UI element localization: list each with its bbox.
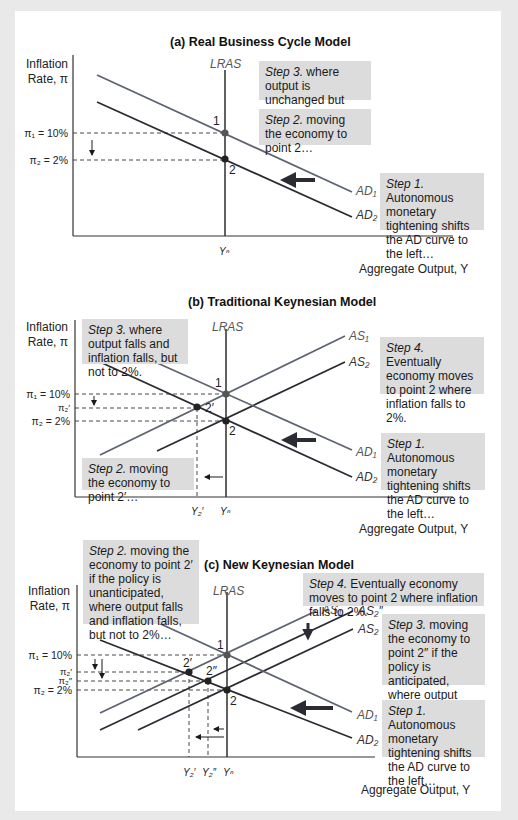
x-tick-yn: Yⁿ bbox=[219, 244, 229, 259]
lras-label: LRAS bbox=[213, 584, 244, 599]
step-number: Step 2. bbox=[89, 544, 127, 558]
y-axis-label-line1: Inflation bbox=[18, 584, 70, 599]
y-axis-label: Inflation Rate, π bbox=[16, 57, 68, 87]
point-2prime bbox=[193, 403, 200, 410]
step-number: Step 3. bbox=[265, 65, 303, 79]
ad2-label: AD₂ bbox=[356, 470, 377, 485]
y-tick-pi2prime: π₂′ bbox=[0, 400, 70, 415]
step-2-box: Step 2. moving the economy to point 2′… bbox=[82, 458, 194, 490]
lras-label: LRAS bbox=[212, 320, 243, 335]
as1-label: AS₁ bbox=[349, 329, 369, 344]
point-label-2dprime: 2″ bbox=[206, 664, 217, 679]
point-label-2prime: 2′ bbox=[183, 656, 192, 671]
lras-label: LRAS bbox=[210, 57, 241, 72]
y-axis-label-line2: Rate, π bbox=[18, 599, 70, 614]
x-tick-y2dprime: Y₂″ bbox=[202, 765, 216, 780]
y-tick-pi2: π₂ = 2% bbox=[0, 153, 68, 168]
step-1-box: Step 1. Autonomous monetary tightening s… bbox=[382, 700, 485, 757]
as2-label: AS₂ bbox=[349, 355, 370, 370]
step-number: Step 4. bbox=[309, 577, 347, 591]
point-1 bbox=[221, 129, 228, 136]
step-number: Step 3. bbox=[388, 618, 426, 632]
ad2-label: AD₂ bbox=[357, 733, 378, 748]
y-tick-pi1: π₁ = 10% bbox=[0, 126, 68, 141]
point-1 bbox=[222, 390, 229, 397]
point-2 bbox=[223, 686, 230, 693]
panel-c-title: (c) New Keynesian Model bbox=[204, 558, 354, 572]
point-label-2prime: 2′ bbox=[205, 401, 214, 416]
x-axis-title: Aggregate Output, Y bbox=[359, 262, 468, 276]
ad1-label: AD₁ bbox=[356, 184, 376, 199]
y-tick-pi2: π₂ = 2% bbox=[0, 683, 72, 698]
as2-label: AS₂ bbox=[358, 622, 379, 637]
step-number: Step 3. bbox=[88, 323, 126, 337]
y-tick-pi2: π₂ = 2% bbox=[0, 414, 70, 429]
step-number: Step 2. bbox=[88, 462, 126, 476]
step-3-box: Step 3. where output falls and inflation… bbox=[82, 319, 188, 364]
point-label-2: 2 bbox=[229, 424, 236, 439]
point-label-1: 1 bbox=[217, 638, 224, 653]
x-tick-y2prime: Y₂′ bbox=[191, 504, 203, 519]
y-axis-label-line2: Rate, π bbox=[16, 72, 68, 87]
x-axis-title: Aggregate Output, Y bbox=[359, 522, 468, 536]
y-axis-label-line2: Rate, π bbox=[16, 335, 68, 350]
point-label-1: 1 bbox=[215, 376, 222, 391]
step-1-box: Step 1. Autonomous monetary tightening s… bbox=[381, 433, 485, 490]
y-axis-label-line1: Inflation bbox=[16, 57, 68, 72]
y-axis-label-line1: Inflation bbox=[16, 320, 68, 335]
step-4-box: Step 4. Eventually economy moves to poin… bbox=[303, 573, 484, 606]
step-1-box: Step 1. Autonomous monetary tightening s… bbox=[380, 173, 484, 230]
step-3-box: Step 3. where output is unchanged but in… bbox=[259, 61, 371, 100]
step-3-box: Step 3. moving the economy to point 2″ i… bbox=[382, 614, 485, 685]
step-number: Step 2. bbox=[265, 113, 303, 127]
y-axis-label: Inflation Rate, π bbox=[16, 320, 68, 350]
ad1-curve bbox=[155, 362, 352, 450]
point-label-2: 2 bbox=[230, 694, 237, 709]
y-axis-label: Inflation Rate, π bbox=[18, 584, 70, 614]
step-number: Step 4. bbox=[386, 341, 424, 355]
step-number: Step 1. bbox=[387, 437, 425, 451]
x-tick-y2prime: Y₂′ bbox=[183, 765, 195, 780]
x-tick-yn: Yⁿ bbox=[220, 504, 230, 519]
ad1-label: AD₁ bbox=[357, 708, 377, 723]
step-2-box: Step 2. moving the economy to point 2… bbox=[259, 109, 371, 145]
step-text: moving the economy to point 2′ if the po… bbox=[89, 544, 193, 642]
point-1 bbox=[223, 651, 230, 658]
x-tick-yn: Yⁿ bbox=[223, 765, 233, 780]
panel-b-title: (b) Traditional Keynesian Model bbox=[188, 295, 376, 309]
ad2-label: AD₂ bbox=[356, 208, 377, 223]
point-2 bbox=[221, 155, 228, 162]
step-number: Step 1. bbox=[386, 177, 424, 191]
point-label-1: 1 bbox=[213, 114, 220, 129]
step-4-box: Step 4. Eventually economy moves to poin… bbox=[380, 337, 484, 394]
step-2-box: Step 2. moving the economy to point 2′ i… bbox=[83, 540, 199, 624]
y-tick-pi1: π₁ = 10% bbox=[0, 648, 72, 663]
step-number: Step 1. bbox=[388, 704, 426, 718]
panel-a-title: (a) Real Business Cycle Model bbox=[170, 35, 351, 49]
point-label-2: 2 bbox=[229, 163, 236, 178]
ad1-label: AD₁ bbox=[356, 445, 376, 460]
